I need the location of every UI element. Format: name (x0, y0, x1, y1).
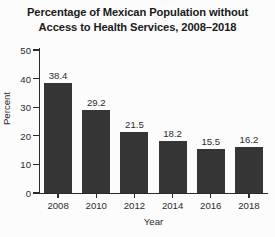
bar[interactable] (82, 110, 110, 194)
x-axis-tick (172, 193, 173, 198)
x-axis-title: Year (39, 216, 268, 227)
bar[interactable] (120, 132, 148, 193)
bar-value-label: 18.2 (163, 128, 182, 139)
x-axis-tick (210, 193, 211, 198)
y-axis-tick-label: 0 (1, 188, 31, 199)
bar-value-label: 16.2 (240, 134, 259, 145)
y-axis-tick-labels: 01020304050 (0, 0, 31, 237)
bar-value-label: 29.2 (87, 97, 106, 108)
bar-group[interactable]: 21.5 (115, 50, 153, 193)
bar[interactable] (197, 149, 225, 193)
chart-title-line-1: Percentage of Mexican Population without (0, 5, 275, 20)
x-axis-tick-label: 2018 (224, 200, 274, 211)
x-axis-tick (57, 193, 58, 198)
y-axis-tick-label: 50 (1, 45, 31, 56)
bar-group[interactable]: 18.2 (154, 50, 192, 193)
bar-value-label: 15.5 (201, 136, 220, 147)
y-axis-tick-label: 10 (1, 159, 31, 170)
bar[interactable] (44, 83, 72, 193)
bar-group[interactable]: 29.2 (77, 50, 115, 193)
bar-group[interactable]: 38.4 (39, 50, 77, 193)
bar-group[interactable]: 15.5 (192, 50, 230, 193)
bar[interactable] (235, 147, 263, 193)
x-axis-tick (248, 193, 249, 198)
chart-title-line-2: Access to Health Services, 2008–2018 (0, 20, 275, 35)
bar-value-label: 21.5 (125, 119, 144, 130)
chart-title: Percentage of Mexican Population without… (0, 5, 275, 35)
x-axis-tick (134, 193, 135, 198)
bar-group[interactable]: 16.2 (230, 50, 268, 193)
y-axis-tick-label: 20 (1, 130, 31, 141)
y-axis-tick-label: 40 (1, 73, 31, 84)
y-axis-tick-label: 30 (1, 102, 31, 113)
bar-chart-figure: Percentage of Mexican Population without… (0, 0, 275, 237)
bar-value-label: 38.4 (49, 70, 68, 81)
bar[interactable] (159, 141, 187, 193)
plot-area: 38.429.221.518.215.516.2 (39, 50, 268, 193)
x-axis-tick (96, 193, 97, 198)
